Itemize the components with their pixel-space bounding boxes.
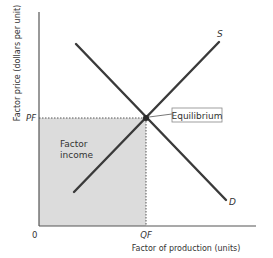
equilibrium-label: Equilibrium [172, 111, 223, 121]
supply-demand-chart: Equilibrium S D Factor income PF 0 QF Fa… [0, 0, 273, 258]
equilibrium-point [143, 115, 149, 121]
x-axis-title: Factor of production (units) [132, 244, 241, 253]
pf-tick-label: PF [26, 113, 36, 123]
equilibrium-pointer [149, 114, 172, 117]
supply-label: S [217, 29, 223, 39]
demand-label: D [229, 197, 236, 207]
qf-tick-label: QF [140, 230, 152, 240]
factor-income-label-2: income [60, 150, 93, 160]
y-axis-title: Factor price (dollars per unit) [13, 5, 22, 121]
origin-label: 0 [32, 230, 37, 240]
factor-income-label-1: Factor [60, 139, 88, 149]
